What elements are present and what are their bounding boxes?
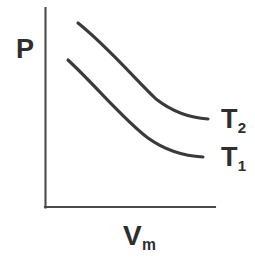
t2-subscript: 2 [238, 119, 246, 136]
t2-symbol: T [221, 104, 238, 134]
t1-symbol: T [221, 142, 238, 172]
isotherm-curve-upper [78, 23, 208, 119]
x-axis-label-molar-volume: Vm [123, 222, 156, 250]
isotherm-curve-lower [68, 60, 203, 157]
t1-subscript: 1 [238, 157, 246, 174]
volume-subscript: m [142, 236, 156, 253]
y-axis-label-pressure: P [16, 36, 34, 63]
curve-label-t1: T1 [221, 144, 246, 171]
volume-symbol: V [123, 220, 142, 251]
pressure-symbol: P [16, 34, 34, 64]
pv-isotherm-figure: P Vm T2 T1 [0, 0, 255, 265]
curve-label-t2: T2 [221, 106, 246, 133]
